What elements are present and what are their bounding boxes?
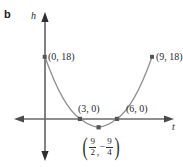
point-label-6-0: (6, 0) — [126, 104, 148, 114]
vertex-y-denominator: 4 — [106, 148, 113, 157]
vertex-x-denominator: 2 — [90, 148, 97, 157]
vertex-x-fraction: 9 2 — [89, 137, 96, 157]
point-marker-vertex — [97, 125, 101, 129]
vertex-y-sign: − — [100, 142, 106, 152]
vertex-y-numerator: 9 — [106, 137, 113, 146]
point-label-3-0: (3, 0) — [78, 104, 100, 114]
parabola-figure: b h t (0, 18) (3, 0) (6, 0) (9, 18) ( 9 — [0, 0, 183, 167]
point-label-0-18: (0, 18) — [48, 52, 75, 62]
vertex-x-numerator: 9 — [90, 137, 97, 146]
x-axis — [14, 115, 174, 122]
vertex-label: ( 9 2 , − 9 4 ) — [81, 137, 121, 158]
x-axis-right-arrowhead — [164, 115, 174, 122]
vertex-close-paren: ) — [115, 137, 120, 158]
y-axis-down-arrowhead — [41, 151, 48, 161]
parabola-curve — [45, 57, 152, 127]
x-axis-left-arrowhead — [14, 115, 24, 122]
vertex-open-paren: ( — [83, 137, 88, 158]
point-marker-3-0 — [78, 117, 82, 121]
point-marker-6-0 — [115, 117, 119, 121]
vertex-y-fraction: 9 4 — [106, 137, 113, 157]
y-axis — [41, 12, 48, 161]
point-label-9-18: (9, 18) — [156, 52, 183, 62]
point-marker-9-18 — [150, 55, 154, 59]
point-marker-0-18 — [43, 55, 47, 59]
y-axis-up-arrowhead — [41, 12, 48, 22]
